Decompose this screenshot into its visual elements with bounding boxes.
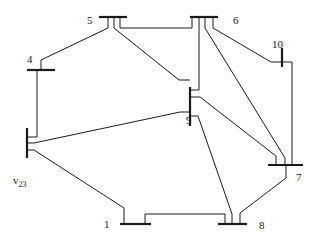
bus-label-4: 4 — [27, 53, 33, 65]
line-5-9 — [114, 17, 190, 80]
bus-label-1: 1 — [104, 218, 110, 230]
line-v23-9 — [27, 112, 190, 143]
bus-label-8: 8 — [259, 219, 265, 231]
line-10-7 — [282, 62, 292, 165]
bus-label-v23-sub: 23 — [19, 180, 27, 189]
line-5-4 — [41, 17, 108, 70]
line-5-6 — [120, 17, 192, 28]
line-9-8 — [190, 116, 232, 224]
bus-label-9: 9 — [186, 114, 192, 126]
line-4-v23 — [27, 70, 37, 137]
line-7-8 — [240, 165, 286, 224]
bus-label-v23: v23 — [13, 174, 27, 189]
bus-label-7: 7 — [296, 171, 302, 183]
line-1-8 — [145, 214, 225, 224]
line-v23-1 — [27, 150, 124, 224]
network-diagram: 5 6 4 10 9 7 1 8 v23 — [0, 0, 316, 243]
bus-label-6: 6 — [233, 14, 239, 26]
bus-label-5: 5 — [87, 14, 93, 26]
bus-label-10: 10 — [272, 38, 284, 50]
